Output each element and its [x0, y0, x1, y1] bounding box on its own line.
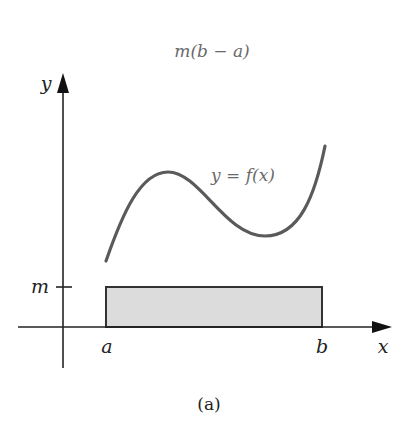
figure-canvas: m(b − a) y = f(x) y m a b x (a) [0, 0, 417, 431]
m-tick-label: m [31, 275, 49, 297]
top-area-label: m(b − a) [174, 41, 249, 61]
figure-caption: (a) [197, 394, 220, 414]
x-axis-arrow-icon [372, 321, 392, 333]
curve-label: y = f(x) [210, 165, 275, 185]
b-tick-label: b [316, 335, 328, 357]
area-rectangle [106, 287, 322, 327]
a-tick-label: a [101, 335, 112, 357]
function-curve [106, 146, 325, 261]
y-axis-label: y [40, 72, 52, 94]
y-axis-arrow-icon [57, 73, 69, 93]
x-axis-label: x [378, 335, 389, 357]
